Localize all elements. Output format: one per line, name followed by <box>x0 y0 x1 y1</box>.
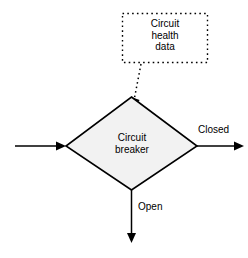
open-edge-label: Open <box>138 201 162 213</box>
closed-edge-label: Closed <box>198 124 229 136</box>
decision-label: Circuit breaker <box>96 132 168 155</box>
data-feed-line <box>134 64 141 100</box>
input-arrowhead-icon <box>56 142 66 151</box>
data-box-label: Circuit health data <box>122 18 208 53</box>
open-arrowhead-icon <box>127 233 136 243</box>
closed-arrowhead-icon <box>234 141 244 150</box>
diagram-canvas: Circuit health data Circuit breaker Clos… <box>0 0 248 258</box>
